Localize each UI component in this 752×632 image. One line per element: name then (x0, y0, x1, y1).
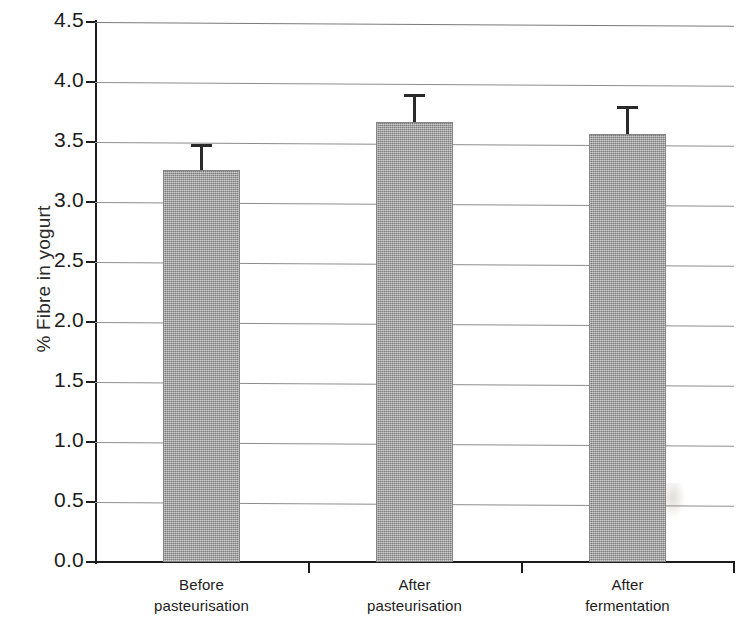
y-axis-tick-label: 4.5 (12, 8, 84, 32)
error-bar-cap (617, 106, 638, 109)
x-axis-label-line1: After (398, 576, 430, 593)
x-axis-label-line2: pasteurisation (315, 595, 515, 616)
bar (589, 134, 666, 562)
y-axis-tick-label: 3.0 (12, 188, 84, 212)
y-axis-tick-label: 1.5 (12, 368, 84, 392)
y-axis-tick (86, 261, 95, 263)
x-axis-tick (521, 562, 523, 573)
x-axis-category-label: Beforepasteurisation (102, 574, 302, 616)
x-axis-label-line2: pasteurisation (102, 595, 302, 616)
y-axis-tick-label: 4.0 (12, 68, 84, 92)
error-bar-stem (200, 144, 203, 169)
error-bar-stem (413, 94, 416, 122)
y-axis-tick-label: 0.5 (12, 488, 84, 512)
x-axis-category-label: Afterpasteurisation (315, 574, 515, 616)
bar (376, 122, 453, 562)
y-axis-tick (86, 561, 95, 563)
y-axis-tick (86, 21, 95, 23)
x-axis-label-line2: fermentation (528, 595, 728, 616)
error-bar-cap (404, 94, 425, 97)
y-axis-tick (86, 141, 95, 143)
y-axis-tick (86, 501, 95, 503)
y-axis-tick-label: 3.5 (12, 128, 84, 152)
gridline (95, 82, 734, 87)
x-axis-category-label: Afterfermentation (528, 574, 728, 616)
y-axis-tick (86, 441, 95, 443)
x-axis-label-line1: Before (179, 576, 224, 593)
error-bar-cap (191, 144, 212, 147)
y-axis-tick-label: 1.0 (12, 428, 84, 452)
x-axis-end-tick (733, 562, 735, 573)
y-axis-tick (86, 321, 95, 323)
x-axis-label-line1: After (611, 576, 643, 593)
y-axis-tick (86, 81, 95, 83)
y-axis-tick-label: 0.0 (12, 548, 84, 572)
y-axis-tick (86, 381, 95, 383)
bar (163, 170, 240, 562)
y-axis-tick-label: 2.5 (12, 248, 84, 272)
y-axis-tick-label: 2.0 (12, 308, 84, 332)
bar-chart: % Fibre in yogurt 0.00.51.01.52.02.53.03… (0, 0, 752, 632)
x-axis-tick (308, 562, 310, 573)
gridline (95, 22, 734, 27)
error-bar-stem (626, 106, 629, 134)
y-axis-tick (86, 201, 95, 203)
